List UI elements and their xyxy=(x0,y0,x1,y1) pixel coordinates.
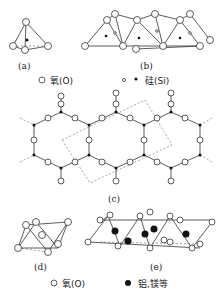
panel-b-chain: (b) xyxy=(82,11,214,72)
panel-c-label: (c) xyxy=(108,194,120,204)
panel-a-tetrahedron: (a) xyxy=(10,19,52,72)
legend-oxygen-label-bottom: 氧(O) xyxy=(62,278,85,289)
silicate-structure-diagram: (a) (b) 氧(O) xyxy=(0,0,224,300)
panel-d-label: (d) xyxy=(34,262,47,272)
panel-e-label: (e) xyxy=(150,262,162,272)
panel-a-label: (a) xyxy=(18,61,30,71)
panel-b-label: (b) xyxy=(140,61,153,71)
panel-d-octahedron: (d) xyxy=(15,219,72,273)
panel-c-sheet: (c) xyxy=(20,90,212,204)
panel-e-sheet: (e) xyxy=(85,209,215,272)
legend-top: 氧(O) 硅(Si) xyxy=(39,75,169,86)
legend-bottom: 氧(O) 铝,镁等 xyxy=(51,278,168,289)
legend-oxygen-label: 氧(O) xyxy=(50,75,73,86)
legend-silicon-label: 硅(Si) xyxy=(145,75,169,86)
legend-metal-label: 铝,镁等 xyxy=(138,278,168,289)
